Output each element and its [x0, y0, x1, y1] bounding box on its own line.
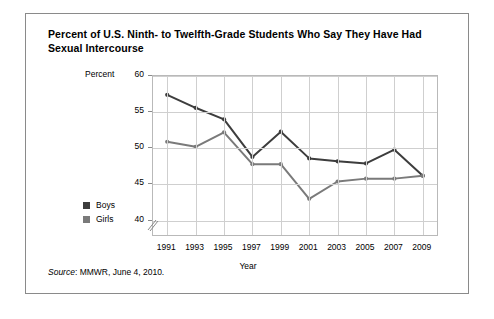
- source-text: : MMWR, June 4, 2010.: [75, 267, 164, 277]
- gridline-vertical: [366, 76, 367, 235]
- legend: Boys Girls: [83, 198, 143, 226]
- source-label: Source: [48, 267, 75, 277]
- series-line-boys: [167, 95, 423, 176]
- gridline-vertical: [394, 76, 395, 235]
- y-axis-title: Percent: [85, 69, 114, 79]
- gridline-vertical: [224, 76, 225, 235]
- chart-title: Percent of U.S. Ninth- to Twelfth-Grade …: [48, 27, 438, 55]
- y-axis-tick-label: 60: [122, 69, 144, 79]
- legend-swatch-girls: [83, 216, 90, 223]
- gridline-vertical: [309, 76, 310, 235]
- series-line-girls: [167, 132, 423, 198]
- legend-swatch-boys: [83, 202, 90, 209]
- legend-label-boys: Boys: [96, 200, 115, 210]
- y-axis-tick-label: 55: [122, 105, 144, 115]
- y-axis-tick-label: 50: [122, 141, 144, 151]
- source-note: Source: MMWR, June 4, 2010.: [48, 267, 164, 277]
- plot-area: [152, 75, 438, 236]
- gridline-vertical: [252, 76, 253, 235]
- gridline-vertical: [281, 76, 282, 235]
- gridline-vertical: [423, 76, 424, 235]
- figure-frame: Percent of U.S. Ninth- to Twelfth-Grade …: [25, 13, 469, 294]
- gridline-vertical: [338, 76, 339, 235]
- x-axis-tick-label: 2009: [405, 242, 439, 252]
- legend-item-boys: Boys: [83, 198, 143, 212]
- gridline-vertical: [196, 76, 197, 235]
- legend-label-girls: Girls: [96, 214, 113, 224]
- legend-item-girls: Girls: [83, 212, 143, 226]
- y-axis-break-icon: [146, 218, 160, 234]
- y-axis-tick-label: 45: [122, 177, 144, 187]
- gridline-vertical: [167, 76, 168, 235]
